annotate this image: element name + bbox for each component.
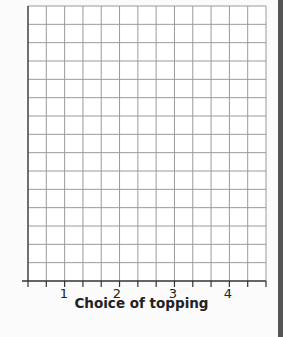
x-axis-title: Choice of topping (0, 295, 283, 311)
page-edge-border (278, 0, 283, 337)
chart-container: 1234 Choice of topping (0, 0, 278, 337)
chart-grid (0, 0, 278, 337)
